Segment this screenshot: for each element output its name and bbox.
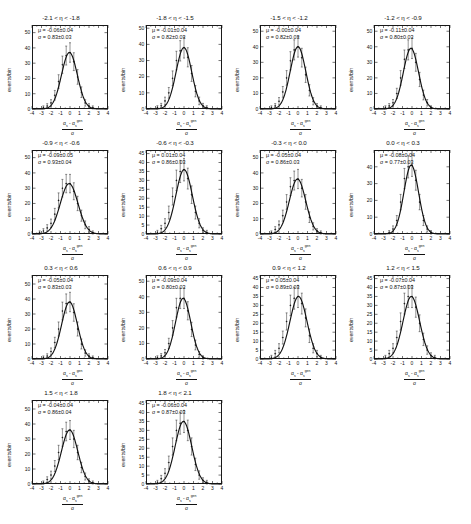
data-points-errorbars <box>156 37 207 109</box>
y-tick-label: 20 <box>139 73 145 79</box>
x-tick-label: 3 <box>97 360 100 366</box>
alpha-subscript-2: s <box>75 374 77 378</box>
subplot-panel: -1.8 < η < -1.5events/bin-4-3-2-10123401… <box>120 12 230 134</box>
x-tick-label: -1 <box>172 485 177 491</box>
y-tick-label: 20 <box>139 445 145 451</box>
gen-superscript: gen <box>77 494 83 498</box>
y-tick-label: 25 <box>139 186 145 192</box>
x-tick-label: 4 <box>335 235 338 241</box>
x-axis-label: αs - αsgenσ <box>62 118 114 134</box>
y-tick-label: 20 <box>25 200 31 206</box>
x-tick-label: 2 <box>316 360 319 366</box>
x-tick-label: -2 <box>163 235 168 241</box>
mu-value: -0.04±0.04 <box>47 402 73 408</box>
x-tick-label: -4 <box>144 235 149 241</box>
x-axis-label-numerator: αs - αsgen <box>290 243 311 255</box>
figure-panel-grid: -2.1 < η < -1.8events/bin-4-3-2-10123401… <box>0 0 471 524</box>
y-tick-label: 10 <box>139 340 145 346</box>
minus-alpha: - α <box>182 495 189 501</box>
plot-area: events/bin-4-3-2-10123401020304050μ = -0… <box>120 23 230 134</box>
y-tick-label: 20 <box>367 320 373 326</box>
subplot-panel: -2.1 < η < -1.8events/bin-4-3-2-10123401… <box>6 12 116 134</box>
x-tick-label: -1 <box>58 485 63 491</box>
y-tick-label: 40 <box>253 170 259 176</box>
minus-alpha: - α <box>182 120 189 126</box>
y-tick-label: 30 <box>139 309 145 315</box>
y-tick-label: 30 <box>139 177 145 183</box>
plot-area: events/bin-4-3-2-10123401020304050μ = -0… <box>6 23 116 134</box>
x-tick-label: 3 <box>325 360 328 366</box>
data-points-errorbars <box>39 174 94 234</box>
y-tick-label: 30 <box>367 180 373 186</box>
minus-alpha: - α <box>68 495 75 501</box>
subplot-panel: -0.3 < η < 0.0events/bin-4-3-2-101234010… <box>234 137 344 259</box>
x-axis-label-denominator: σ <box>290 380 311 386</box>
sigma-row: σ = 0.86±0.03 <box>266 159 334 166</box>
plot-area: events/bin-4-3-2-10123401020304050μ = -0… <box>6 398 116 509</box>
x-axis-label-numerator: αs - αsgen <box>404 243 425 255</box>
minus-alpha: - α <box>296 120 303 126</box>
x-axis-label-numerator: αs - αsgen <box>404 118 425 130</box>
x-tick-label: 3 <box>211 485 214 491</box>
gen-superscript: gen <box>305 119 311 123</box>
x-axis-label-numerator: αs - αsgen <box>290 118 311 130</box>
y-tick-label: 20 <box>253 320 259 326</box>
sigma-value: 0.86±0.03 <box>275 159 299 165</box>
x-axis-label: αs - αsgenσ <box>62 243 114 259</box>
x-tick-label: -4 <box>30 235 35 241</box>
x-tick-label: 2 <box>202 360 205 366</box>
x-tick-label: 1 <box>78 360 81 366</box>
y-tick-label: 5 <box>369 347 372 353</box>
x-tick-label: 1 <box>192 360 195 366</box>
x-tick-label: 1 <box>306 110 309 116</box>
panel-title: 0.3 < η < 0.6 <box>6 262 116 273</box>
y-tick-label: 25 <box>367 311 373 317</box>
mu-prefix: μ = <box>380 27 389 33</box>
x-tick-label: -1 <box>172 235 177 241</box>
panel-title: -0.6 < η < -0.3 <box>120 137 230 148</box>
y-tick-label: 10 <box>367 90 373 96</box>
sigma-value: 0.86±0.03 <box>161 159 185 165</box>
mu-value: -0.08±0.04 <box>389 152 415 158</box>
y-tick-label: 10 <box>367 338 373 344</box>
y-tick-label: 50 <box>253 154 259 160</box>
sigma-value: 0.82±0.03 <box>161 34 185 40</box>
alpha-subscript-2: s <box>189 374 191 378</box>
y-tick-label: 10 <box>25 341 31 347</box>
x-tick-label: -1 <box>58 110 63 116</box>
y-tick-label: 40 <box>253 284 259 290</box>
x-tick-label: 0 <box>411 110 414 116</box>
panel-title: 1.8 < η < 2.1 <box>120 387 230 398</box>
x-tick-label: 3 <box>439 110 442 116</box>
y-tick-label: 30 <box>367 302 373 308</box>
x-tick-label: 0 <box>69 360 72 366</box>
sigma-value: 0.87±0.03 <box>161 409 185 415</box>
x-tick-label: 0 <box>411 360 414 366</box>
x-axis-label-denominator: σ <box>62 380 83 386</box>
x-axis-label: αs - αsgenσ <box>404 243 456 259</box>
x-tick-label: 2 <box>88 485 91 491</box>
mu-value: -0.06±0.04 <box>47 27 73 33</box>
x-tick-label: -1 <box>400 110 405 116</box>
y-tick-label: 40 <box>367 284 373 290</box>
x-tick-label: 4 <box>221 110 224 116</box>
mu-row: μ = 0.01±0.04 <box>152 152 220 159</box>
y-tick-label: 30 <box>253 302 259 308</box>
plot-area: events/bin-4-3-2-10123405101520253035404… <box>120 398 230 509</box>
y-tick-label: 50 <box>25 406 31 412</box>
x-axis-label: αs - αsgenσ <box>176 493 228 509</box>
minus-alpha: - α <box>296 370 303 376</box>
subplot-panel: 0.6 < η < 0.9events/bin-4-3-2-1012340102… <box>120 262 230 384</box>
x-axis-label-numerator: αs - αsgen <box>62 368 83 380</box>
x-axis-label-numerator: αs - αsgen <box>62 243 83 255</box>
fit-statistics-box: μ = 0.01±0.04σ = 0.86±0.03 <box>150 152 220 165</box>
plot-area: events/bin-4-3-2-10123401020304050μ = -0… <box>120 273 230 384</box>
minus-alpha: - α <box>410 120 417 126</box>
y-tick-label: 0 <box>255 356 258 362</box>
y-tick-label: 25 <box>139 436 145 442</box>
x-tick-label: 0 <box>411 235 414 241</box>
data-points-errorbars <box>270 36 321 109</box>
x-tick-label: -3 <box>381 360 386 366</box>
x-tick-label: -3 <box>153 485 158 491</box>
x-tick-label: 4 <box>107 235 110 241</box>
